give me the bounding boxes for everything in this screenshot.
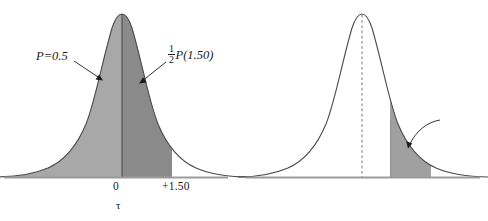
left-half-label-rest: P(1.50) xyxy=(176,48,214,62)
left-tick-label-0: 0 xyxy=(113,181,119,193)
left-x-axis-label: τ xyxy=(116,200,120,211)
right-chart-panel: P 0 +1.0 +2.0 τ xyxy=(244,0,488,221)
fraction-numerator: 1 xyxy=(168,44,175,54)
one-half-fraction: 12 xyxy=(168,44,175,65)
left-half-shaded-region xyxy=(0,10,122,178)
left-p-label: P=0.5 xyxy=(36,50,68,63)
left-tick-label-150: +1.50 xyxy=(162,181,190,193)
right-bell-curve xyxy=(238,14,488,177)
right-chart-plot xyxy=(244,0,488,221)
fraction-denominator: 2 xyxy=(168,54,175,65)
zero-to-150-shaded-region xyxy=(122,10,172,178)
right-p-callout-arrow xyxy=(406,120,440,149)
left-p-callout-arrow xyxy=(74,61,103,81)
normal-distribution-figure: P=0.5 12P(1.50) 0 +1.50 τ xyxy=(0,0,488,221)
left-half-probability-label: 12P(1.50) xyxy=(168,44,213,65)
right-tail-shaded-region xyxy=(390,10,431,178)
left-chart-plot xyxy=(0,0,244,221)
left-chart-panel: P=0.5 12P(1.50) 0 +1.50 τ xyxy=(0,0,244,221)
